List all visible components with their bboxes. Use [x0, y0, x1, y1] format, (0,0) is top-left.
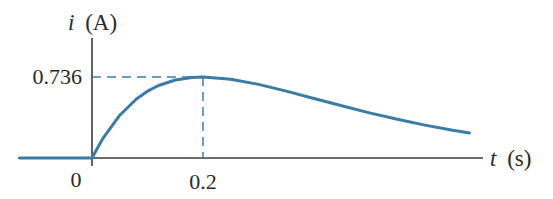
- x-tick-label-peak: 0.2: [189, 169, 217, 194]
- y-axis-label: i (A): [68, 10, 117, 35]
- x-axis-unit: (s): [507, 146, 531, 171]
- x-axis-label: t (s): [490, 146, 531, 171]
- y-axis-unit: (A): [85, 10, 117, 35]
- y-axis-variable: i: [68, 10, 74, 35]
- current-curve: [20, 77, 470, 158]
- x-axis-variable: t: [490, 146, 497, 171]
- current-vs-time-chart: i (A) t (s) 0.736 0 0.2: [0, 0, 553, 199]
- x-tick-label-zero: 0: [71, 167, 82, 192]
- y-tick-label-peak: 0.736: [33, 64, 83, 89]
